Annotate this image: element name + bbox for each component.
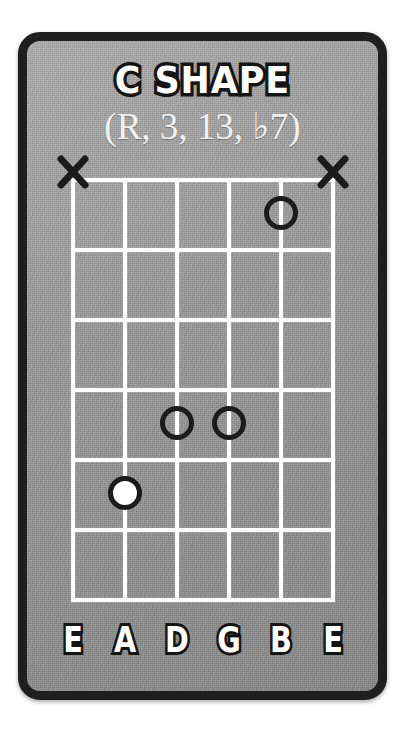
- string-line-5: [279, 178, 283, 598]
- string-label-5: B: [260, 617, 303, 663]
- fret-marker-g-fret-4[interactable]: [212, 406, 246, 440]
- chord-diagram-card: C SHAPE (R, 3, 13, ♭7) EADGBE: [18, 32, 387, 700]
- mute-x-icon-string-6: [316, 155, 350, 189]
- string-label-6: E: [312, 617, 355, 663]
- fret-marker-b-fret-1[interactable]: [264, 196, 298, 230]
- nut-line: [71, 178, 335, 182]
- card-inner: C SHAPE (R, 3, 13, ♭7) EADGBE: [27, 41, 378, 691]
- string-label-1: E: [52, 617, 95, 663]
- string-line-2: [123, 178, 127, 598]
- fret-line-2: [71, 318, 335, 322]
- string-line-4: [227, 178, 231, 598]
- string-label-4: G: [208, 617, 251, 663]
- fret-line-6: [71, 598, 335, 602]
- string-line-3: [175, 178, 179, 598]
- fret-line-3: [71, 388, 335, 392]
- fret-line-5: [71, 528, 335, 532]
- screenshot-root: C SHAPE (R, 3, 13, ♭7) EADGBE: [0, 0, 405, 739]
- string-line-1: [71, 178, 75, 598]
- chord-intervals-subtitle: (R, 3, 13, ♭7): [27, 105, 378, 149]
- fretboard-grid: [73, 178, 333, 598]
- fret-line-4: [71, 458, 335, 462]
- string-label-3: D: [156, 617, 199, 663]
- page-title: C SHAPE: [41, 59, 364, 101]
- string-label-row: EADGBE: [73, 617, 333, 669]
- string-line-6: [331, 178, 335, 598]
- fret-line-1: [71, 248, 335, 252]
- fret-marker-a-fret-5[interactable]: [108, 476, 142, 510]
- fret-marker-d-fret-4[interactable]: [160, 406, 194, 440]
- mute-x-icon-string-1: [56, 155, 90, 189]
- string-label-2: A: [104, 617, 147, 663]
